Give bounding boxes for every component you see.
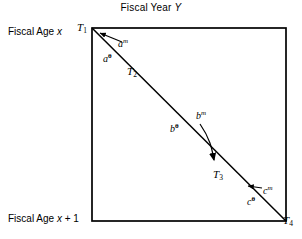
annotation-c-theta-sup: θ <box>251 195 255 203</box>
diagram-canvas: Fiscal Year Y Fiscal Age x Fiscal Age x … <box>0 0 302 239</box>
node-label-t1: T1 <box>77 22 87 35</box>
diagram-graphics <box>0 0 302 239</box>
annotation-a-m: am <box>118 38 128 49</box>
annotation-b-theta-sup: θ <box>175 122 179 130</box>
node-label-t4: T4 <box>283 215 293 228</box>
node-t1-sub: 1 <box>83 26 87 35</box>
node-t4-sub: 4 <box>289 219 293 228</box>
annotation-a-theta-sup: θ <box>108 52 112 60</box>
annotation-a-theta: aθ <box>103 53 112 64</box>
annotation-c-m: cm <box>263 185 273 196</box>
annotation-b-m: bm <box>196 110 206 121</box>
annotation-c-m-sup: m <box>267 184 272 192</box>
node-t2-sub: 2 <box>133 70 137 79</box>
arrow-c-m <box>248 186 262 188</box>
annotation-c-theta: cθ <box>247 196 255 207</box>
cohort-diagonal-line <box>92 28 286 221</box>
node-label-t3: T3 <box>213 169 223 182</box>
annotation-a-m-sup: m <box>123 37 128 45</box>
annotation-b-theta: bθ <box>170 123 179 134</box>
node-t3-sub: 3 <box>219 173 223 182</box>
node-label-t2: T2 <box>127 66 137 79</box>
annotation-b-m-sup: m <box>201 109 206 117</box>
